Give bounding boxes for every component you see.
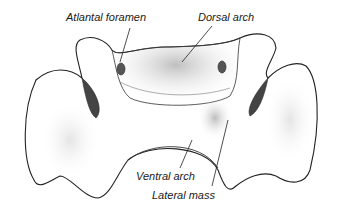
label-dorsal-arch: Dorsal arch bbox=[198, 12, 254, 23]
label-lateral-mass: Lateral mass bbox=[152, 190, 215, 201]
right-atlantal-foramen bbox=[218, 61, 226, 73]
atlas-vertebra-drawing bbox=[0, 0, 339, 217]
left-atlantal-foramen bbox=[117, 63, 125, 75]
label-ventral-arch: Ventral arch bbox=[136, 171, 195, 182]
label-atlantal-foramen: Atlantal foramen bbox=[66, 12, 146, 23]
